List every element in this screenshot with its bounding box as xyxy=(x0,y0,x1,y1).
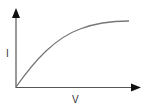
x-axis-label: V xyxy=(72,95,79,105)
y-axis-arrow-icon xyxy=(12,8,20,18)
x-axis-arrow-icon xyxy=(131,84,141,92)
y-axis-label: I xyxy=(6,49,9,59)
iv-curve xyxy=(16,21,129,87)
